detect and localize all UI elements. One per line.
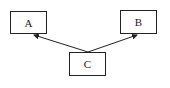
edge-c-to-b xyxy=(88,35,137,52)
node-a: A xyxy=(10,11,47,34)
edge-c-to-a xyxy=(34,35,88,52)
node-c: C xyxy=(69,52,106,76)
node-b-label: B xyxy=(135,16,142,28)
node-b: B xyxy=(120,10,157,34)
node-c-label: C xyxy=(84,58,91,70)
node-a-label: A xyxy=(25,17,33,29)
